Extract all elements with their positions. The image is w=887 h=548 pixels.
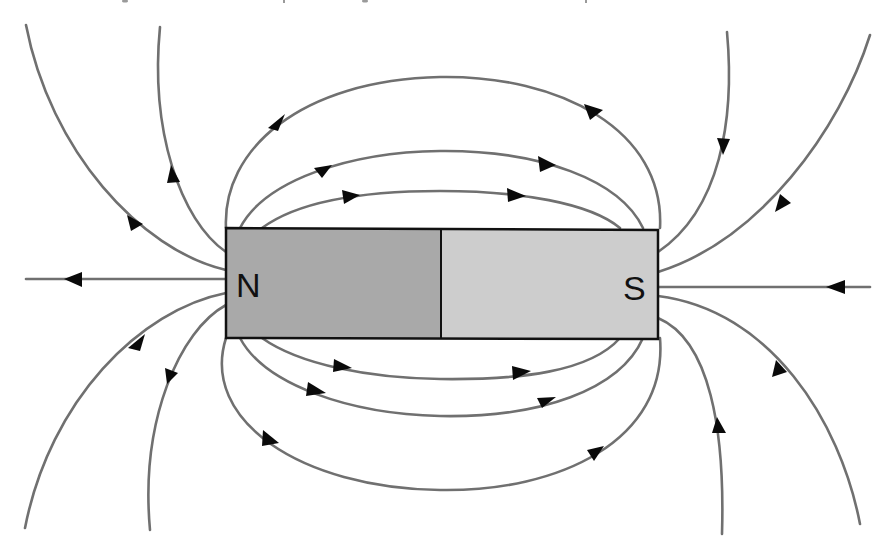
bottom-loop-inner: [262, 338, 620, 380]
bottom-loop-outer: [222, 338, 661, 490]
arrow-icon: [127, 215, 143, 231]
right-upper-outer: [658, 35, 870, 272]
bar-magnet: N S: [226, 228, 658, 339]
top-loop-middle: [240, 151, 643, 228]
arrow-icon: [306, 382, 326, 396]
left-upper-inner: [158, 27, 226, 252]
left-lower-inner: [148, 305, 226, 530]
arrow-icon: [826, 280, 845, 294]
right-line-straight: [658, 280, 870, 294]
cropped-caption-fragments: [122, 0, 587, 3]
top-loop-inner: [262, 188, 620, 228]
arrow-icon: [717, 138, 730, 155]
arrow-icon: [165, 368, 178, 384]
arrow-icon: [775, 194, 791, 212]
arrow-icon: [538, 156, 556, 172]
left-upper-outer: [26, 25, 226, 270]
arrow-icon: [772, 360, 787, 377]
arrow-icon: [262, 430, 279, 446]
left-line-straight: [26, 272, 226, 287]
south-label: S: [623, 269, 646, 307]
left-lower-outer: [25, 293, 226, 528]
arrow-icon: [64, 272, 82, 287]
right-lower-inner: [658, 318, 726, 534]
bar-magnet-field-diagram: N S: [0, 0, 887, 548]
right-lower-outer: [658, 296, 860, 524]
top-loop-outer: [226, 77, 660, 228]
right-upper-inner: [658, 32, 730, 252]
bottom-loop-middle: [240, 338, 643, 416]
arrow-icon: [712, 417, 726, 433]
arrow-icon: [512, 366, 531, 380]
north-label: N: [236, 266, 261, 304]
arrow-icon: [507, 188, 526, 202]
